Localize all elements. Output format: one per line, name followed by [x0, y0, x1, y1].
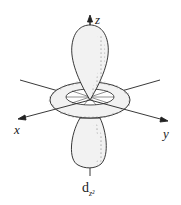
y-axis-label: y: [163, 126, 169, 142]
dz2-orbital-diagram: [0, 0, 181, 205]
caption-main: d: [82, 180, 89, 195]
z-axis-label: z: [95, 12, 100, 28]
caption-subscript: z²: [89, 189, 95, 198]
x-axis-label: x: [14, 122, 20, 138]
orbital-caption: dz²: [82, 180, 95, 198]
